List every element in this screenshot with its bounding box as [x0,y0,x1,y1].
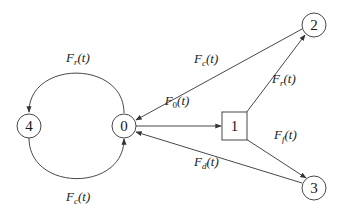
edge-label-1-to-3: Ff(t) [273,127,297,144]
edge-label-2-to-0: Fc(t) [193,51,218,68]
edge-label-0-to-4: Fr(t) [65,50,90,67]
node-0-label: 0 [120,118,128,134]
node-4-label: 4 [25,118,33,134]
edge-4-to-0 [29,138,124,179]
node-1-label: 1 [231,118,239,134]
edge-label-3-to-0: Fd(t) [193,154,219,171]
diagram-canvas: 0 1 2 3 4 F0(t) Fr(t) Ff(t) Fc(t) Fd(t) … [0,0,350,215]
node-2-label: 2 [310,17,318,33]
node-3-label: 3 [310,180,318,196]
edge-label-0-to-1: F0(t) [164,93,190,110]
edge-label-1-to-2: Fr(t) [271,71,296,88]
edge-1-to-3 [246,139,306,178]
state-diagram: 0 1 2 3 4 F0(t) Fr(t) Ff(t) Fc(t) Fd(t) … [0,0,350,215]
edge-0-to-4 [29,73,124,113]
edge-label-4-to-0: Fc(t) [65,189,90,206]
